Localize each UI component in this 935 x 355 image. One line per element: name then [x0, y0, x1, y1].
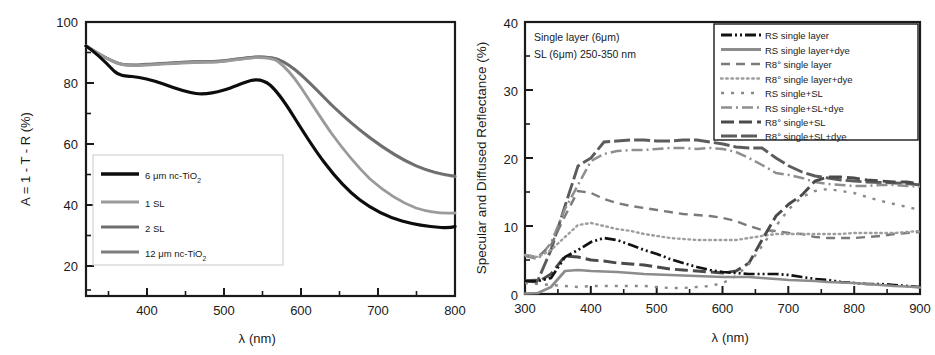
y-axis-title: Specular and Diffused Reflectance (%): [474, 42, 489, 274]
x-tick-label: 400: [136, 303, 158, 318]
legend-item-label: RS single layer+dye: [765, 45, 850, 56]
x-axis-title: λ (nm): [239, 331, 276, 346]
x-tick-label: 600: [290, 303, 312, 318]
figure-container: 100 80 60 40 20 400 500: [0, 0, 935, 355]
x-tick-label: 400: [580, 301, 602, 316]
annotation-line-1: Single layer (6μm): [534, 31, 619, 43]
y-axis-title: A = 1 - T - R (%): [18, 112, 33, 206]
y-tick-label: 80: [64, 76, 78, 91]
x-axis-title-unit: (nm): [722, 330, 749, 345]
x-tick-label: 700: [367, 303, 389, 318]
reflectance-svg: 40 30 20 10 0 30: [470, 0, 935, 355]
legend-item-label: R8° single+SL: [765, 117, 826, 128]
legend[interactable]: RS single layer RS single layer+dye R8° …: [714, 24, 918, 142]
y-tick-label: 40: [504, 16, 518, 31]
reflectance-chart-panel: 40 30 20 10 0 30: [470, 0, 935, 355]
x-tick-label: 300: [514, 301, 536, 316]
x-tick-label: 700: [777, 301, 799, 316]
legend-item-label: R8° single layer+dye: [765, 74, 853, 85]
y-tick-label: 60: [64, 137, 78, 152]
y-tick-label: 40: [64, 198, 78, 213]
legend-item-label: R8° single layer: [765, 59, 832, 70]
legend-item-label: 2 SL: [145, 223, 165, 234]
x-axis-title-unit: (nm): [249, 331, 276, 346]
legend-item-label: RS single+SL: [765, 88, 823, 99]
x-axis-title: λ (nm): [712, 330, 749, 345]
absorptance-chart-panel: 100 80 60 40 20 400 500: [0, 0, 470, 355]
x-tick-label: 800: [444, 303, 466, 318]
legend-item-label: RS single layer: [765, 30, 829, 41]
legend-item-label: RS single+SL+dye: [765, 103, 844, 114]
x-tick-label: 800: [843, 301, 865, 316]
legend-item-label: 1 SL: [145, 198, 165, 209]
x-axis-title-lambda: λ: [239, 331, 246, 346]
y-tick-label: 20: [64, 259, 78, 274]
y-tick-label: 20: [504, 152, 518, 167]
legend-item-label: R8° single+SL+dye: [765, 131, 846, 142]
x-tick-label: 500: [646, 301, 668, 316]
x-axis-title-lambda: λ: [712, 330, 719, 345]
x-tick-label: 500: [213, 303, 235, 318]
annotation-line-2: SL (6μm) 250-350 nm: [534, 48, 636, 60]
x-tick-label: 900: [909, 301, 931, 316]
y-tick-label: 100: [56, 15, 78, 30]
y-tick-label: 30: [504, 84, 518, 99]
x-tick-label: 600: [712, 301, 734, 316]
absorptance-svg: 100 80 60 40 20 400 500: [0, 0, 470, 355]
y-tick-label: 10: [504, 220, 518, 235]
legend[interactable]: 6 μm nc-TiO2 1 SL 2 SL 12 μm nc-TiO2: [93, 155, 283, 265]
